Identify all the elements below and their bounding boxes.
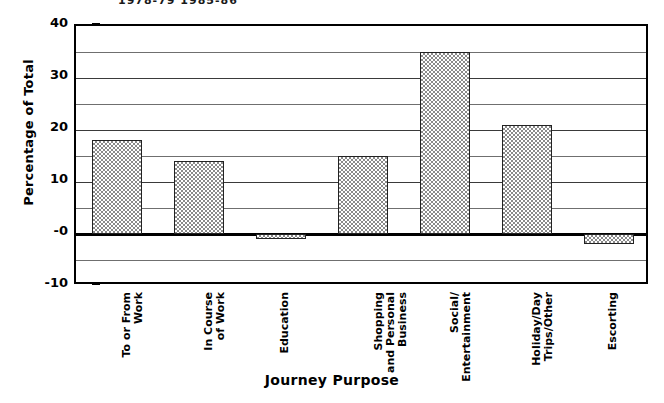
y-tick-label: -0 — [28, 223, 68, 238]
y-tick-label: 30 — [28, 67, 68, 82]
y-tick-label: 10 — [28, 171, 68, 186]
gridline — [76, 130, 646, 131]
bar — [502, 125, 551, 234]
bar — [420, 52, 469, 234]
gridline — [76, 52, 646, 53]
gridline — [76, 104, 646, 105]
bar — [92, 140, 141, 234]
plot-area — [74, 24, 648, 284]
bar — [584, 234, 633, 244]
bar — [338, 156, 387, 234]
bar — [256, 234, 305, 239]
y-axis-tick-labels: 40302010-0-10 — [22, 24, 68, 284]
y-tick-label: -10 — [28, 275, 68, 290]
gridline — [76, 78, 646, 79]
bar — [174, 161, 223, 234]
gridline — [76, 260, 646, 261]
y-tick-label: 20 — [28, 119, 68, 134]
clipped-header-text: 1978-79 1985-86 — [118, 0, 238, 7]
y-tick-label: 40 — [28, 15, 68, 30]
x-axis-title: Journey Purpose — [0, 372, 664, 388]
